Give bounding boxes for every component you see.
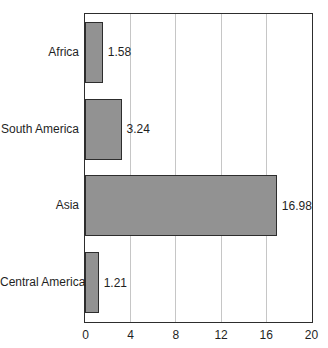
bar-central-america [85,252,99,313]
value-label-south-america: 3.24 [127,123,150,135]
value-label-asia: 16.98 [282,200,312,212]
value-label-central-america: 1.21 [104,277,127,289]
plot-area: 1.583.2416.981.21 [84,13,313,323]
bar-asia [85,175,277,236]
category-label-south-america: South America [0,123,79,136]
x-tick-label-8: 8 [173,329,180,341]
category-label-central-america: Central America [0,277,79,290]
gridline-16 [266,14,267,322]
category-label-africa: Africa [0,46,79,59]
gridline-8 [175,14,176,322]
bar-south-america [85,99,122,160]
value-label-africa: 1.58 [108,46,131,58]
gridline-4 [130,14,131,322]
x-tick-label-16: 16 [260,329,273,341]
x-tick-label-0: 0 [82,329,89,341]
category-label-asia: Asia [0,200,79,213]
x-tick-label-12: 12 [214,329,227,341]
bar-africa [85,22,103,83]
x-tick-label-20: 20 [305,329,318,341]
bar-chart: 1.583.2416.981.21 AfricaSouth AmericaAsi… [0,0,328,348]
x-tick-label-4: 4 [127,329,134,341]
gridline-12 [221,14,222,322]
